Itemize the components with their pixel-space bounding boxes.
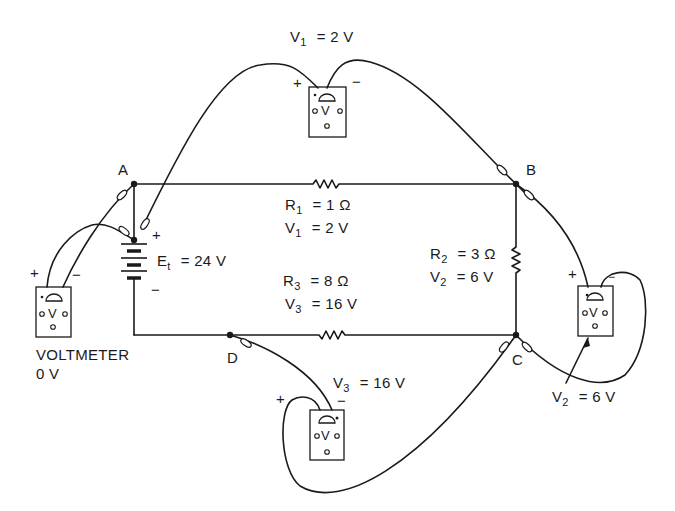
v3-label: V3= 16 V <box>285 296 357 315</box>
top-meter-plus: + <box>293 75 302 90</box>
top-meter-reading: V1= 2 V <box>290 29 354 48</box>
r1-label: R1= 1 Ω <box>285 197 351 216</box>
battery-icon <box>121 244 147 278</box>
right-meter-leads <box>516 184 646 383</box>
bottom-meter-plus: + <box>276 391 285 406</box>
battery-plus: + <box>152 227 161 242</box>
battery-minus: − <box>151 282 160 297</box>
node-d-label: D <box>227 350 238 365</box>
meter-face-top: V <box>321 104 330 117</box>
left-meter-leads <box>47 184 134 287</box>
right-meter-plus: + <box>568 266 577 281</box>
r2-label: R2= 3 Ω <box>430 246 496 265</box>
r3-label: R3= 8 Ω <box>283 273 349 292</box>
node-c-label: C <box>512 352 523 367</box>
bottom-meter-leads <box>230 335 516 493</box>
circuit-diagram <box>0 0 675 511</box>
node-a-label: A <box>118 162 128 177</box>
meter-face-left: V <box>48 307 57 320</box>
voltmeter-caption: VOLTMETER <box>36 347 129 362</box>
v2-label: V2= 6 V <box>430 269 494 288</box>
top-meter-minus: − <box>352 74 361 89</box>
right-meter-reading: V2= 6 V <box>552 389 616 408</box>
v1-label: V1= 2 V <box>285 220 349 239</box>
left-meter-plus: + <box>30 265 39 280</box>
right-meter-minus: − <box>608 271 615 283</box>
meter-face-right: V <box>589 306 598 319</box>
node-b-label: B <box>526 162 536 177</box>
meter-face-bottom: V <box>321 429 330 442</box>
left-meter-minus: − <box>72 267 81 282</box>
source-voltage-label: Et= 24 V <box>157 253 226 272</box>
voltmeter-reading: 0 V <box>36 366 59 381</box>
bottom-meter-minus: − <box>337 393 346 408</box>
